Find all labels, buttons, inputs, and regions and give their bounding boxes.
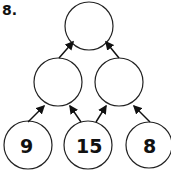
arrow-icon <box>70 106 81 122</box>
middle-left-circle[interactable] <box>34 58 82 106</box>
middle-right-circle[interactable] <box>95 58 143 106</box>
arrow-icon <box>96 106 106 122</box>
bottom-right-value: 8 <box>143 135 156 157</box>
bottom-left-value: 9 <box>20 135 33 157</box>
arrow-icon <box>28 106 44 122</box>
arrow-icon <box>106 42 119 58</box>
arrow-icon <box>59 42 73 58</box>
arrow-icon <box>134 106 150 122</box>
bottom-middle-value: 15 <box>76 135 102 157</box>
